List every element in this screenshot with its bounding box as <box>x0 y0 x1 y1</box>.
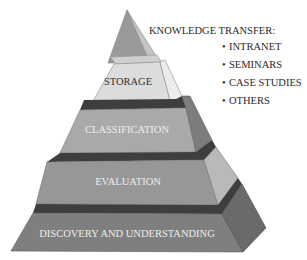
bullet-icon: • <box>222 58 229 72</box>
knowledge-transfer-list: •INTRANET •SEMINARS •CASE STUDIES •OTHER… <box>222 40 302 112</box>
bullet-icon: • <box>222 76 229 90</box>
discovery-label: DISCOVERY AND UNDERSTANDING <box>39 228 215 239</box>
bullet-icon: • <box>222 40 229 54</box>
bullet-icon: • <box>222 94 229 108</box>
knowledge-transfer-title: KNOWLEDGE TRANSFER: <box>149 26 275 37</box>
evaluation-label: EVALUATION <box>95 176 161 187</box>
list-item: •OTHERS <box>222 94 302 112</box>
knowledge-pyramid: STORAGE CLASSIFICATION EVALUATION DISCOV… <box>0 0 307 260</box>
storage-label: STORAGE <box>104 76 152 87</box>
list-item: •CASE STUDIES <box>222 76 302 94</box>
list-item: •SEMINARS <box>222 58 302 76</box>
classification-label: CLASSIFICATION <box>85 124 169 135</box>
pyramid-level-classification: CLASSIFICATION <box>60 96 212 153</box>
list-item: •INTRANET <box>222 40 302 58</box>
